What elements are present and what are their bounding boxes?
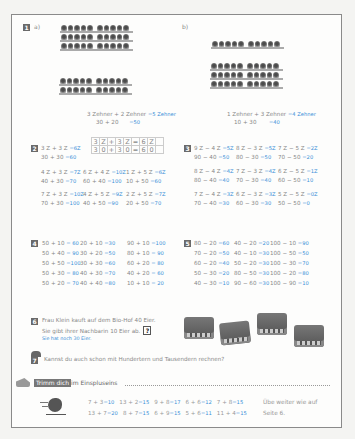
task-3-item: 70 − 30 =40: [236, 177, 271, 183]
bead-icon: [232, 41, 238, 47]
ten-bar: [61, 25, 129, 31]
answer: =100: [151, 240, 165, 246]
equation: 13 + 7: [88, 410, 107, 416]
bead-icon: [74, 43, 80, 49]
equation: 100 − 30: [270, 260, 296, 266]
task-1-number: 1: [23, 24, 30, 31]
trimm-title: im Einspluseins: [71, 379, 118, 386]
bead-icon: [104, 34, 110, 40]
answer: =20: [218, 270, 229, 276]
equation: 40 − 30: [194, 280, 216, 286]
task-6-line2: Sie gibt ihrer Nachbarin 10 Eier ab.?: [42, 326, 151, 335]
shoe-icon: [16, 378, 30, 387]
bead-icon: [123, 34, 129, 40]
ten-bar: [211, 81, 279, 87]
task-1a-line2: 30 + 20 =50: [96, 119, 140, 125]
task-4-item: 50 + 20 = 70: [42, 280, 79, 286]
equation: 50 + 20: [42, 280, 64, 286]
answer: =20: [302, 154, 313, 160]
trimm-item: 7 + 3=10: [88, 399, 114, 405]
task-3-item: 7 Z − 5 Z =2Z: [278, 145, 318, 151]
answer: =15: [170, 410, 181, 416]
equation: 50 − 20: [234, 260, 256, 266]
answer: =60: [104, 260, 115, 266]
answer: =30: [258, 250, 269, 256]
task-3-item: 60 − 30 =30: [236, 200, 271, 206]
bead-icon: [254, 72, 260, 78]
bead-icon: [260, 63, 266, 69]
answer: =30: [104, 240, 115, 246]
task-3-item: 80 − 30 =50: [236, 154, 271, 160]
question-mark-icon: ?: [143, 326, 151, 335]
equation: 9 Z − 4 Z: [194, 145, 221, 151]
task-3-item: 7 Z − 3 Z =4Z: [236, 168, 276, 174]
answer: =50: [298, 250, 309, 256]
bead-icon: [80, 78, 86, 84]
task-2-item: 4 Z + 3 Z =7Z: [41, 169, 81, 175]
equation: 90 − 40: [194, 154, 216, 160]
trimm-item: 13 + 7=20: [88, 410, 118, 416]
equation: 20 + 50: [126, 200, 148, 206]
grid-cell: 3: [92, 146, 100, 154]
grid-cell: Z: [124, 138, 132, 146]
bead-icon: [110, 25, 116, 31]
equation: 7 + 8: [217, 399, 232, 405]
bead-icon: [237, 63, 243, 69]
egg-carton-image: [219, 320, 251, 345]
grid-cell: +: [108, 138, 116, 146]
bead-icon: [116, 78, 122, 84]
bead-icon: [254, 63, 260, 69]
bead-icon: [255, 41, 261, 47]
grid-cell: 3: [116, 138, 124, 146]
task-4-item: 20 + 10 =30: [80, 240, 115, 246]
equation: 40 + 30: [80, 270, 102, 276]
bead-icon: [247, 72, 253, 78]
bead-bar-base: [60, 40, 133, 42]
bead-icon: [110, 43, 116, 49]
task-5-item: 80 − 20 =60: [194, 240, 229, 246]
answer: =0Z: [306, 191, 317, 197]
answer: =5Z: [222, 145, 233, 151]
equation: 40 − 10: [234, 250, 256, 256]
answer: =7Z: [69, 169, 80, 175]
ten-bar: [60, 87, 128, 93]
ten-bar: [211, 63, 279, 69]
equation: 7 Z − 4 Z: [194, 191, 221, 197]
task-3-number: 3: [184, 145, 191, 152]
bead-icon: [267, 72, 273, 78]
task-1b-label: b): [182, 23, 188, 30]
bead-icon: [212, 41, 218, 47]
trimm-item: 6 + 6=12: [186, 399, 212, 405]
bead-icon: [60, 87, 66, 93]
task-5-item: 40 − 10 =30: [234, 250, 269, 256]
equation: 8 Z − 3 Z: [236, 145, 263, 151]
task-3-item: 5 Z − 5 Z =0Z: [278, 191, 318, 197]
equation: 40 + 30: [41, 178, 63, 184]
answer: =10: [218, 280, 229, 286]
bead-icon: [247, 63, 253, 69]
bead-icon: [231, 72, 237, 78]
equation: 60 − 50: [278, 177, 300, 183]
equation: 80 − 50: [234, 270, 256, 276]
task-5-item: 50 − 20 =30: [234, 260, 269, 266]
answer: =30: [258, 270, 269, 276]
task-3-item: 8 Z − 4 Z =4Z: [194, 168, 234, 174]
task-2-item: 4 Z + 5 Z =9Z: [83, 191, 123, 197]
equation: 80 − 40: [194, 177, 216, 183]
bead-icon: [68, 43, 74, 49]
grid-cell: 0: [100, 146, 108, 154]
bead-icon: [81, 43, 87, 49]
grid-cell: +: [108, 146, 116, 154]
trimm-item: 5 + 6=11: [186, 410, 212, 416]
answer: =100: [66, 260, 80, 266]
bead-icon: [218, 72, 224, 78]
bead-icon: [211, 72, 217, 78]
bead-icon: [219, 41, 225, 47]
answer: = 60: [151, 270, 164, 276]
bead-icon: [274, 41, 280, 47]
trimm-item: 9 + 8=17: [154, 399, 180, 405]
bead-icon: [231, 81, 237, 87]
equation: 90 + 10: [127, 240, 149, 246]
equation: 20 + 10: [80, 240, 102, 246]
equation: 60 − 30: [236, 200, 258, 206]
